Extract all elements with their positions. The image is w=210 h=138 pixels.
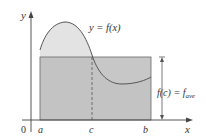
- tick-label-c: c: [89, 124, 94, 135]
- y-axis-arrow-icon: [29, 11, 34, 18]
- height-label: f(c) = fave: [157, 87, 195, 100]
- height-label-subscript: ave: [185, 92, 195, 100]
- mean-value-diagram: y x 0 a c b y = f(x) f(c) = fave: [0, 0, 210, 138]
- tick-label-a: a: [38, 124, 43, 135]
- curve-label: y = f(x): [88, 22, 121, 34]
- origin-label: 0: [21, 124, 26, 135]
- tick-label-b: b: [143, 124, 148, 135]
- average-value-rectangle: [40, 57, 151, 120]
- x-axis-arrow-icon: [186, 118, 193, 123]
- arrow-down-icon: [160, 115, 164, 120]
- height-label-main: f(c) = f: [157, 87, 187, 99]
- y-axis-label: y: [20, 9, 26, 21]
- arrow-up-icon: [160, 57, 164, 62]
- x-axis-label: x: [184, 123, 190, 135]
